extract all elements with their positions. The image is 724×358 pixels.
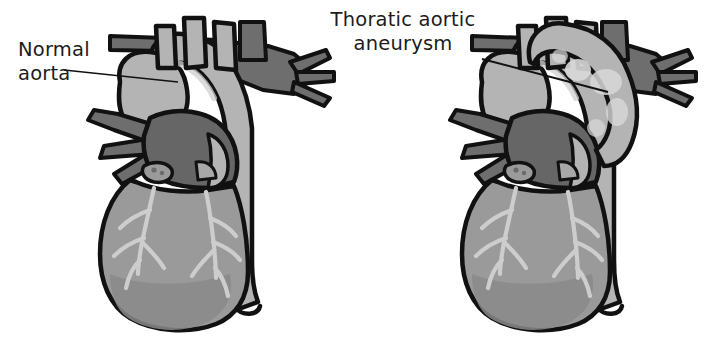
figure-aneurysm: [450, 18, 696, 330]
illustration-canvas: Normalaorta Thoratic aorticaneurysm: [0, 0, 724, 358]
figure-normal-aorta: [64, 18, 334, 330]
label-aneurysm-line2: aneurysm: [354, 32, 453, 55]
label-thoracic-aortic-aneurysm: Thoratic aorticaneurysm: [308, 8, 498, 56]
label-normal-aorta: Normalaorta: [18, 38, 90, 86]
label-normal-aorta-line2: aorta: [18, 62, 71, 85]
label-normal-aorta-line1: Normal: [18, 38, 90, 61]
label-aneurysm-line1: Thoratic aortic: [331, 8, 476, 31]
